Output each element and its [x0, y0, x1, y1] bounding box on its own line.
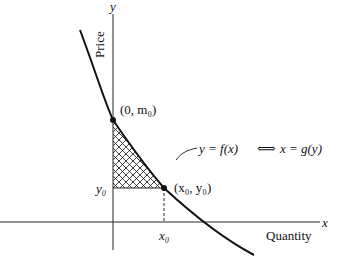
curve-label-leader — [176, 148, 197, 160]
demand-curve-diagram: y Price x Quantity (0, m₀) (x₀, y₀) y₀ x… — [0, 0, 337, 257]
curve-equation-right: x = g(y) — [279, 141, 322, 156]
x-axis-label: x — [321, 215, 328, 230]
intercept-point — [110, 117, 116, 123]
price-axis-title: Price — [92, 31, 107, 58]
curve-equation-left: y = f(x) — [197, 141, 238, 156]
y-axis-label: y — [108, 0, 116, 14]
equivalence-arrow: ⟺ — [257, 141, 276, 156]
y0-tick-label: y₀ — [94, 181, 106, 196]
x0-tick-label: x₀ — [158, 228, 169, 243]
quantity-axis-title: Quantity — [266, 228, 312, 243]
equilibrium-point — [161, 185, 167, 191]
hatched-region — [113, 115, 168, 190]
intercept-label: (0, m₀) — [120, 102, 156, 117]
equilibrium-label: (x₀, y₀) — [174, 180, 211, 195]
